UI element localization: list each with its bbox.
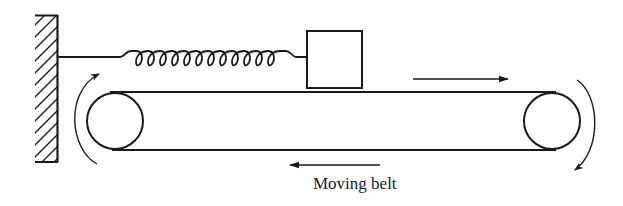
right-rotation-arrow-icon [575,80,595,170]
right-pulley [524,93,580,149]
fixed-wall [20,0,70,206]
moving-belt-diagram [0,0,623,206]
spring [58,51,307,65]
left-pulley [87,93,143,149]
mass-block [307,31,362,88]
spring-coils [136,51,280,65]
belt [110,92,556,150]
spring-lead-right [280,51,307,57]
spring-lead-left [58,51,136,57]
wall-hatching [20,0,70,206]
diagram-caption: Moving belt [313,174,397,194]
